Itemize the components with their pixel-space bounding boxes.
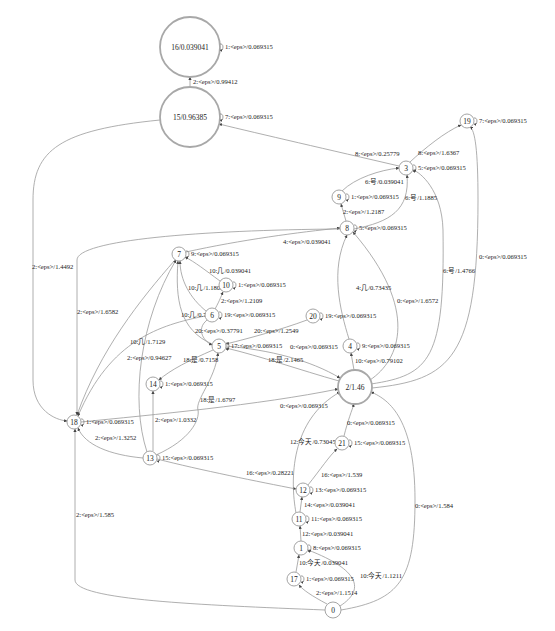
self-loop-9: [346, 194, 349, 200]
edge-13-to-18: [78, 428, 143, 458]
self-loop-label: 8:<eps>/0.069315: [313, 544, 362, 551]
edge-3-to-15: [219, 124, 399, 166]
state-label: 16/0.039041: [171, 43, 209, 52]
self-loop-20: [320, 313, 323, 319]
self-loop-label: 1:<eps>/0.069315: [86, 418, 135, 425]
state-label: 8: [345, 224, 349, 233]
edge-3-to-19: [410, 125, 461, 162]
edge-label: 18:是/1.6797: [200, 396, 236, 404]
edge-label: 12:<eps>/0.039041: [302, 530, 353, 537]
edge-6-to-18: [78, 316, 205, 416]
edge-label: 0:<eps>/0.069315: [290, 343, 339, 350]
self-loop-11: [306, 516, 309, 522]
self-loop-19: [474, 118, 477, 124]
self-loop-label: 5:<eps>/0.069315: [359, 224, 408, 231]
state-label: 13: [146, 454, 154, 463]
state-label: 2/1.46: [346, 383, 365, 392]
edge-label: 16:<eps>/1.539: [321, 471, 363, 478]
state-node-11: 11: [292, 512, 306, 526]
state-node-19: 19: [460, 114, 474, 128]
self-loop-label: 15:<eps>/0.069315: [162, 454, 214, 461]
self-loop-21: [349, 440, 352, 446]
state-node-20: 20: [306, 309, 320, 323]
state-node-21: 21: [335, 436, 349, 450]
edge-2-to-5: [226, 348, 339, 381]
state-node-3: 3: [399, 161, 413, 175]
edge-label: 18:是/0.7158: [183, 356, 219, 364]
state-label: 3: [404, 164, 408, 173]
self-loop-label: 19:<eps>/0.069315: [325, 312, 377, 319]
self-loop-label: 5:<eps>/0.069315: [418, 164, 467, 171]
self-loop-12: [310, 487, 313, 493]
edge-label: 14:<eps>/0.039041: [304, 501, 355, 508]
state-node-15: 15/0.96385: [160, 87, 220, 147]
state-label: 11: [295, 515, 302, 524]
edge-2-to-3: [371, 170, 443, 384]
state-node-0: 0: [325, 602, 341, 618]
state-node-10: 10: [219, 278, 233, 292]
self-loop-label: 9:<eps>/0.069315: [362, 342, 411, 349]
state-node-2: 2/1.46: [338, 370, 372, 404]
fst-graph-canvas: 2:<eps>/0.994128:<eps>/0.257798:<eps>/1.…: [0, 0, 555, 631]
state-label: 14: [149, 380, 157, 389]
edge-label: 0:<eps>/1.584: [415, 502, 454, 509]
state-node-8: 8: [340, 221, 354, 235]
self-loop-8: [354, 225, 357, 231]
state-label: 15/0.96385: [173, 113, 207, 122]
edge-label: 2:<eps>/1.2187: [343, 208, 385, 215]
state-node-9: 9: [332, 190, 346, 204]
edge-15-to-18: [33, 120, 160, 421]
edge-label: 2:<eps>/1.0332: [155, 416, 196, 423]
state-label: 1: [299, 544, 303, 553]
state-label: 12: [299, 486, 307, 495]
edge-1-to-11: [300, 526, 301, 541]
state-node-16: 16/0.039041: [160, 17, 220, 77]
edge-label: 0:<eps>/0.069315: [479, 253, 528, 260]
edge-label: 10:<eps>/0.79102: [355, 357, 403, 364]
edge-label: 12:今天/0.73045: [290, 437, 336, 446]
state-label: 20: [309, 312, 317, 321]
edge-13-to-5: [156, 353, 218, 455]
state-node-12: 12: [296, 483, 310, 497]
edge-label: 10:今天/0.039041: [299, 558, 348, 567]
state-node-14: 14: [146, 377, 160, 391]
self-loop-label: 1:<eps>/0.069315: [225, 43, 274, 50]
edge-label: 2:<eps>/1.4492: [32, 263, 73, 270]
edge-label: 6:号/1.4766: [443, 267, 476, 275]
edge-label: 20:<eps>/0.37791: [195, 327, 243, 334]
state-node-18: 18: [67, 415, 81, 429]
state-node-5: 5: [212, 339, 226, 353]
edge-label: 0:<eps>/0.069315: [347, 419, 396, 426]
state-label: 5: [217, 342, 221, 351]
state-node-17: 17: [287, 572, 301, 586]
state-label: 6: [210, 311, 214, 320]
edge-label: 6:号/1.1885: [405, 194, 438, 202]
self-loop-label: 7:<eps>/0.069315: [225, 113, 274, 120]
edge-label: 0:<eps>/0.069315: [280, 402, 329, 409]
edge-label: 16:<eps>/0.28221: [246, 469, 294, 476]
edge-label: 2:<eps>/1.6582: [77, 308, 118, 315]
edge-label: 2:<eps>/1.3252: [95, 434, 136, 441]
edge-label: 4:<eps>/0.039041: [283, 238, 331, 245]
edge-labels-layer: 2:<eps>/0.994128:<eps>/0.257798:<eps>/1.…: [32, 78, 528, 596]
edge-label: 2:<eps>/0.99412: [193, 78, 238, 85]
self-loop-4: [357, 343, 360, 349]
edge-2-to-4: [351, 353, 354, 370]
self-loop-label: 1:<eps>/0.069315: [351, 193, 400, 200]
self-loop-label: 7:<eps>/0.069315: [479, 117, 528, 124]
state-label: 0: [331, 606, 335, 615]
self-loop-label: 19:<eps>/0.069315: [224, 311, 276, 318]
edge-label: 6:号/0.039041: [365, 178, 404, 186]
edge-label: 20:<eps>/1.2549: [254, 327, 299, 334]
edge-4-to-8: [338, 235, 349, 339]
edge-label: 2:<eps>/1.2109: [221, 297, 263, 304]
state-label: 17: [290, 575, 298, 584]
state-label: 9: [337, 193, 341, 202]
self-loop-17: [301, 576, 304, 582]
self-loop-label: 1:<eps>/0.069315: [165, 380, 214, 387]
self-loop-label: 17:<eps>/0.069315: [231, 342, 283, 349]
edge-label: 2:<eps>/1.1514: [316, 589, 358, 596]
self-loop-label: 11:<eps>/0.069315: [311, 515, 363, 522]
state-label: 21: [338, 439, 346, 448]
state-node-6: 6: [205, 308, 219, 322]
